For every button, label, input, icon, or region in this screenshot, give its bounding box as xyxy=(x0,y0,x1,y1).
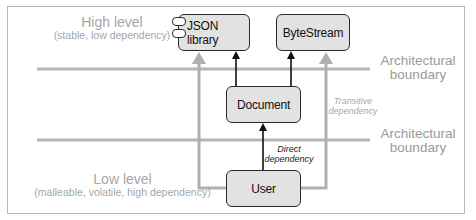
transitive-arrowhead-bytestream xyxy=(319,52,333,64)
high-level-subtitle: (stable, low dependency) xyxy=(52,30,172,42)
boundary-label-upper-line1: Architectural xyxy=(380,53,455,68)
transitive-arrow-json xyxy=(199,64,226,188)
high-level-title: High level xyxy=(52,15,172,30)
node-user: User xyxy=(226,170,301,207)
boundary-label-lower-line2: boundary xyxy=(390,140,446,155)
transitive-arrowhead-json xyxy=(192,52,206,64)
boundary-label-lower: Architectural boundary xyxy=(368,127,468,155)
boundary-label-upper-line2: boundary xyxy=(390,67,446,82)
boundary-label-upper: Architectural boundary xyxy=(368,54,468,82)
direct-dependency-line1: Direct xyxy=(277,144,301,154)
node-json-library: JSON library xyxy=(178,14,250,51)
node-bytestream-label: ByteStream xyxy=(283,26,344,40)
node-bytestream: ByteStream xyxy=(276,14,350,51)
transitive-dependency-label: Transitive dependency xyxy=(328,96,378,117)
direct-dependency-label: Direct dependency xyxy=(264,144,314,165)
boundary-label-lower-line1: Architectural xyxy=(380,126,455,141)
transitive-dependency-line2: dependency xyxy=(328,106,377,116)
transitive-arrow-bytestream xyxy=(300,64,326,188)
transitive-dependency-line1: Transitive xyxy=(334,96,372,106)
direct-dependency-line2: dependency xyxy=(264,154,313,164)
high-level-label: High level (stable, low dependency) xyxy=(52,15,172,42)
low-level-subtitle: (malleable, volatile, high dependency) xyxy=(30,187,215,199)
low-level-title: Low level xyxy=(30,172,215,187)
node-user-label: User xyxy=(251,182,276,196)
low-level-label: Low level (malleable, volatile, high dep… xyxy=(30,172,215,199)
component-icon xyxy=(172,17,186,26)
node-json-library-label: JSON library xyxy=(187,19,249,47)
node-document: Document xyxy=(226,86,301,123)
node-document-label: Document xyxy=(237,98,290,112)
component-icon xyxy=(172,29,186,38)
